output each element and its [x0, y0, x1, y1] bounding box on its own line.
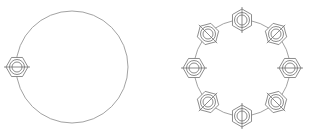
hex-nut — [181, 58, 207, 77]
hex-nut — [265, 91, 286, 112]
hex-nut — [4, 57, 30, 76]
hex-nut — [232, 103, 251, 129]
hex-nut — [277, 58, 303, 77]
hex-nut — [265, 23, 286, 44]
figure-single-bolt-circle — [4, 11, 128, 123]
hex-nut — [197, 91, 218, 112]
figure-eight-bolt-circle — [181, 7, 303, 129]
bolt-circle-guide — [16, 11, 128, 123]
hex-nut — [232, 7, 251, 33]
hex-nut — [197, 23, 218, 44]
technical-drawing-canvas — [0, 0, 310, 138]
